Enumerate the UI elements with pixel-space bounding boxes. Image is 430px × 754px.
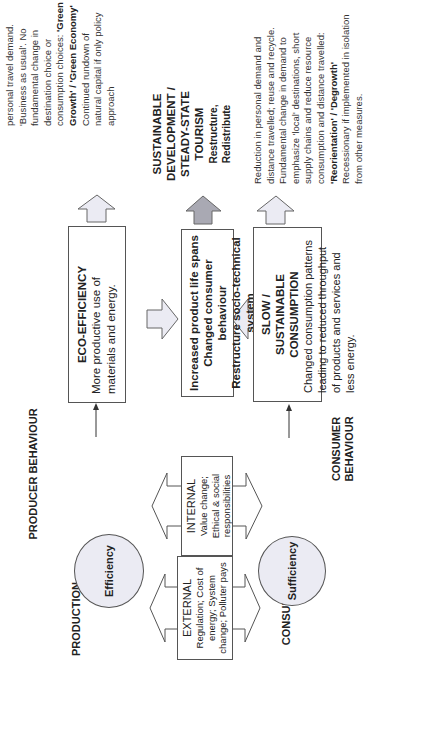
internal-body: Value change; Ethical & social responsib… [198,461,233,551]
consumption-outcome-text: Reduction in personal demand and distanc… [252,6,365,184]
eco-efficiency-title: ECO-EFFICIENCY [75,235,89,394]
slow-consumption-box: SLOW / SUSTAINABLE CONSUMPTION Changed c… [253,227,322,402]
production-outcome-intro: personal travel demand. 'Business as usu… [4,24,65,126]
goal-title: SUSTAINABLE DEVELOPMENT / STEADY-STATE T… [150,74,206,194]
arrow-to-slow-consumption-icon [286,404,292,411]
eco-efficiency-body: More productive use of materials and ene… [89,235,119,394]
block-arrow-right-production-icon [78,195,115,222]
goal-heading: SUSTAINABLE DEVELOPMENT / STEADY-STATE T… [150,74,233,194]
block-arrow-down-icon [147,299,178,339]
consumption-outcome-intro: Reduction in personal demand and distanc… [252,27,326,184]
slow-consumption-body: Changed consumption patterns leading to … [301,236,357,393]
production-outcome-text: personal travel demand. 'Business as usu… [4,2,117,126]
centre-measures-box: Increased product life spans Changed con… [181,229,234,397]
consumption-outcome-tail: Recessionary if implemented in isolation… [340,15,364,185]
production-outcome-tail: Continued rundown of natural capital if … [80,12,116,126]
diagram-stage: PRODUCTION DRIVERS FOR CHANGE CONSUMPTIO… [0,0,430,754]
external-body: Regulation; Cost of energy; System chang… [194,561,229,655]
block-arrow-right-goal-icon [186,196,221,224]
eco-efficiency-box: ECO-EFFICIENCY More productive use of ma… [68,226,126,403]
slow-consumption-title: SLOW / SUSTAINABLE CONSUMPTION [259,236,301,393]
centre-line-1: Increased product life spans [187,234,201,392]
internal-driver-box: INTERNAL Value change; Ethical & social … [181,456,233,556]
internal-title: INTERNAL [185,461,198,551]
block-arrow-right-consumption-icon [257,196,294,224]
arrow-to-eco-efficiency-icon [93,403,99,410]
consumption-outcome-bold: 'Reorientation' / 'Degrowth' [328,62,339,184]
external-driver-box: EXTERNAL Regulation; Cost of energy; Sys… [177,556,233,660]
goal-subtitle: Restructure, Redistribute [207,74,233,194]
external-title: EXTERNAL [181,561,194,655]
centre-line-2: Changed consumer behaviour [201,234,229,392]
